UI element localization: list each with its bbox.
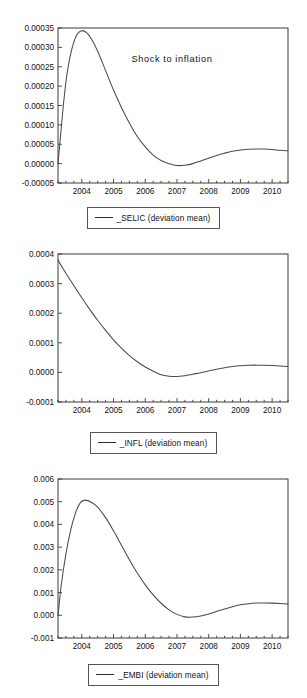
y-axis-tick-label: 0.0001 [29, 339, 54, 348]
series-line-0 [58, 260, 288, 377]
plot-area-selic: 0.000350.000300.000250.000200.000150.000… [0, 0, 307, 205]
x-axis-tick-label: 2009 [231, 642, 250, 651]
y-axis-tick-label: 0.006 [34, 475, 55, 484]
legend-selic: _SELIC (deviation mean) [0, 207, 307, 229]
y-axis-tick-label: 0.00020 [24, 82, 54, 91]
chart-infl: 0.00040.00030.00020.00010.0000-0.0001200… [0, 232, 307, 430]
legend-line-icon [95, 217, 113, 218]
series-line-0 [58, 500, 288, 617]
chart-selic: 0.000350.000300.000250.000200.000150.000… [0, 0, 307, 205]
y-axis-tick-label: 0.001 [34, 589, 55, 598]
plot-area-embi: 0.0060.0050.0040.0030.0020.0010.000-0.00… [0, 457, 307, 662]
y-axis-tick-label: 0.00030 [24, 43, 54, 52]
series-line-0 [58, 31, 288, 166]
panel-selic: 0.000350.000300.000250.000200.000150.000… [0, 0, 307, 232]
x-axis-tick-label: 2008 [200, 187, 219, 196]
legend-infl: _INFL (deviation mean) [0, 432, 307, 454]
x-axis-tick-label: 2009 [231, 406, 250, 415]
chart-embi: 0.0060.0050.0040.0030.0020.0010.000-0.00… [0, 457, 307, 662]
panel-infl: 0.00040.00030.00020.00010.0000-0.0001200… [0, 232, 307, 457]
x-axis-tick-label: 2005 [104, 187, 123, 196]
x-axis-tick-label: 2010 [263, 406, 282, 415]
legend-embi: _EMBI (deviation mean) [0, 664, 307, 686]
y-axis-tick-label: 0.003 [34, 543, 55, 552]
chart-title: Shock to inflation [132, 54, 213, 64]
x-axis-tick-label: 2004 [73, 642, 92, 651]
legend-line-icon [96, 674, 114, 675]
x-axis-tick-label: 2009 [231, 187, 250, 196]
y-axis-tick-label: -0.001 [31, 634, 55, 643]
y-axis-tick-label: 0.005 [34, 498, 55, 507]
x-axis-tick-label: 2004 [73, 406, 92, 415]
y-axis-tick-label: 0.00005 [24, 140, 54, 149]
x-axis-tick-label: 2010 [263, 642, 282, 651]
x-axis-tick-label: 2006 [136, 642, 155, 651]
y-axis-tick-label: 0.0000 [29, 368, 54, 377]
legend-label-selic: _SELIC (deviation mean) [117, 215, 211, 223]
legend-box-selic: _SELIC (deviation mean) [87, 207, 221, 229]
y-axis-tick-label: 0.00025 [24, 63, 54, 72]
y-axis-tick-label: -0.0001 [26, 398, 54, 407]
x-axis-tick-label: 2005 [104, 642, 123, 651]
y-axis-tick-label: 0.004 [34, 520, 55, 529]
y-axis-tick-label: 0.00015 [24, 102, 54, 111]
x-axis-tick-label: 2007 [168, 406, 187, 415]
x-axis-tick-label: 2010 [263, 187, 282, 196]
legend-label-embi: _EMBI (deviation mean) [118, 672, 208, 680]
legend-label-infl: _INFL (deviation mean) [120, 440, 207, 448]
y-axis-tick-label: 0.00010 [24, 121, 54, 130]
y-axis-tick-label: 0.00000 [24, 160, 54, 169]
y-axis-tick-label: 0.0002 [29, 309, 54, 318]
y-axis-tick-label: 0.0004 [29, 250, 54, 259]
legend-line-icon [98, 442, 116, 443]
x-axis-tick-label: 2004 [73, 187, 92, 196]
y-axis-tick-label: 0.0003 [29, 280, 54, 289]
x-axis-tick-label: 2007 [168, 187, 187, 196]
x-axis-tick-label: 2007 [168, 642, 187, 651]
legend-box-infl: _INFL (deviation mean) [90, 432, 217, 454]
x-axis-tick-label: 2006 [136, 406, 155, 415]
x-axis-tick-label: 2008 [200, 642, 219, 651]
y-axis-tick-label: 0.00035 [24, 24, 54, 33]
legend-box-embi: _EMBI (deviation mean) [88, 664, 218, 686]
y-axis-tick-label: 0.000 [34, 611, 55, 620]
plot-area-infl: 0.00040.00030.00020.00010.0000-0.0001200… [0, 232, 307, 430]
x-axis-tick-label: 2005 [104, 406, 123, 415]
panel-embi: 0.0060.0050.0040.0030.0020.0010.000-0.00… [0, 457, 307, 698]
x-axis-tick-label: 2006 [136, 187, 155, 196]
x-axis-tick-label: 2008 [200, 406, 219, 415]
y-axis-tick-label: -0.00005 [22, 179, 55, 188]
y-axis-tick-label: 0.002 [34, 566, 55, 575]
